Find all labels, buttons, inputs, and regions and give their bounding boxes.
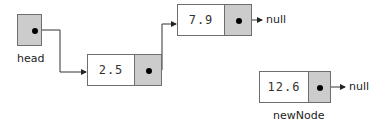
node1-next-pointer: [134, 54, 162, 86]
pointer-dot-icon: [32, 28, 38, 34]
newnode-label: newNode: [273, 109, 324, 122]
newnode-next-pointer: [308, 71, 331, 103]
pointer-dot-icon: [236, 18, 242, 24]
newnode-data: 12.6: [259, 71, 309, 103]
node1-data: 2.5: [87, 54, 135, 86]
head-label: head: [17, 52, 44, 65]
pointer-dot-icon: [317, 85, 323, 91]
node2-next-pointer: [224, 4, 252, 36]
node2-null-label: null: [266, 13, 286, 26]
pointer-dot-icon: [146, 68, 152, 74]
node2-data: 7.9: [177, 4, 225, 36]
head-pointer-box: [17, 14, 42, 46]
newnode-null-label: null: [349, 80, 369, 93]
